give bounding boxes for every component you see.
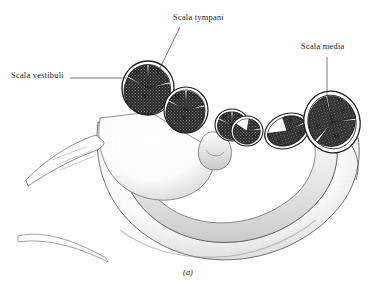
svg-text:M: M — [333, 132, 339, 139]
svg-text:M: M — [253, 134, 257, 139]
svg-text:M: M — [174, 93, 180, 100]
cross-section-turn-4: T V M — [231, 116, 263, 146]
label-scala-vestibuli: Scala vestibuli — [11, 72, 64, 80]
label-scala-tympani: Scala tympani — [173, 14, 224, 22]
cochlea-lower-ledge — [18, 234, 108, 262]
cross-section-turn-2: M T V — [164, 87, 208, 133]
svg-text:M: M — [222, 114, 226, 119]
svg-text:V: V — [143, 92, 148, 99]
cochlea-figure: M T V M T V M T V — [0, 0, 376, 296]
svg-text:T: T — [253, 121, 256, 126]
leader-scala-tympani — [159, 27, 180, 70]
svg-text:V: V — [315, 122, 320, 129]
svg-text:T: T — [193, 93, 197, 100]
svg-text:M: M — [134, 68, 140, 75]
svg-text:V: V — [182, 113, 187, 120]
cochlea-basal-tail — [26, 135, 104, 186]
figure-caption: (a) — [0, 268, 376, 277]
svg-text:T: T — [341, 107, 345, 114]
label-scala-media: Scala media — [301, 43, 344, 51]
